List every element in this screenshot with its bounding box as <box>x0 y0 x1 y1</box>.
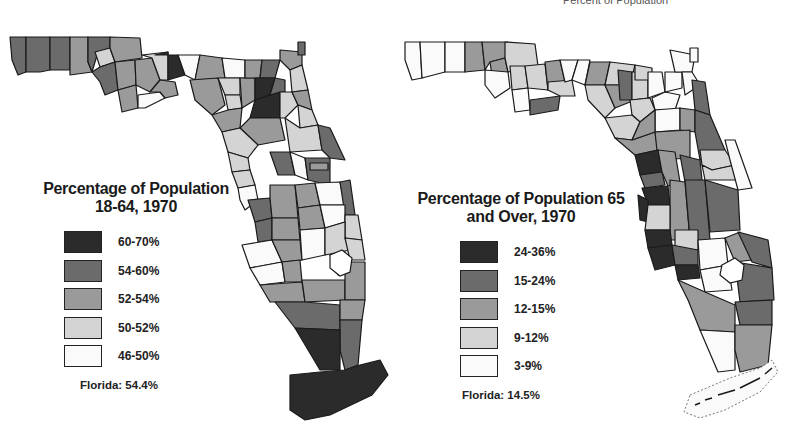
legend-swatch <box>64 260 102 282</box>
legend-item: 50-52% <box>64 314 236 343</box>
legend-label: 46-50% <box>118 349 159 363</box>
legend-swatch <box>64 317 102 339</box>
legend-swatch <box>460 241 498 263</box>
legend-item: 15-24% <box>460 267 626 296</box>
legend-label: 12-15% <box>514 302 555 316</box>
legend-label: 24-36% <box>514 245 555 259</box>
legend-item: 54-60% <box>64 257 236 286</box>
legend-item: 46-50% <box>64 342 236 371</box>
legend-item: 60-70% <box>64 228 236 257</box>
legend-swatch <box>460 355 498 377</box>
legend-18-64: Percentage of Population 18-64, 1970 60-… <box>36 180 236 391</box>
state-total: Florida: 14.5% <box>462 389 626 401</box>
legend-title: Percentage of Population 18-64, 1970 <box>36 180 236 216</box>
legend-item: 12-15% <box>460 295 626 324</box>
legend-swatch <box>460 327 498 349</box>
legend-label: 50-52% <box>118 321 159 335</box>
legend-label: 3-9% <box>514 359 542 373</box>
legend-label: 54-60% <box>118 264 159 278</box>
legend-label: 15-24% <box>514 274 555 288</box>
legend-item: 3-9% <box>460 352 626 381</box>
legend-item: 24-36% <box>460 238 626 267</box>
legend-swatch <box>460 270 498 292</box>
legend-swatch <box>64 345 102 367</box>
legend-title: Percentage of Population 65 and Over, 19… <box>416 190 626 226</box>
legend-swatch <box>64 288 102 310</box>
legend-label: 60-70% <box>118 235 159 249</box>
map-panel-18-64: Percentage of Population 18-64, 1970 60-… <box>0 0 400 441</box>
state-total: Florida: 54.4% <box>80 379 236 391</box>
legend-label: 9-12% <box>514 331 549 345</box>
legend-item: 52-54% <box>64 285 236 314</box>
legend-swatch <box>460 298 498 320</box>
legend-item: 9-12% <box>460 324 626 353</box>
map-panel-65-over: Percentage of Population 65 and Over, 19… <box>400 0 802 441</box>
legend-label: 52-54% <box>118 292 159 306</box>
legend-swatch <box>64 231 102 253</box>
legend-65-over: Percentage of Population 65 and Over, 19… <box>416 190 626 401</box>
